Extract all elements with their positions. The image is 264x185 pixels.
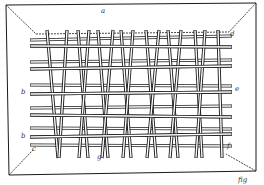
corner-line-top-left: [6, 5, 36, 34]
reference-label-f: f: [227, 143, 230, 150]
reference-label-g: g: [97, 154, 101, 161]
corner-line-bottom-right: [226, 154, 256, 171]
horizontal-rod: [30, 106, 232, 108]
reference-label-b: b: [21, 133, 25, 140]
reference-label-fig: fig: [238, 177, 247, 184]
reference-label-b: b: [21, 89, 25, 96]
reference-label-c: c: [32, 146, 36, 153]
reference-label-a: a: [101, 8, 105, 15]
horizontal-rod-over: [30, 92, 232, 94]
slanted-rods: [30, 30, 232, 158]
corner-line-top-right: [229, 3, 256, 32]
reference-label-e: e: [235, 86, 239, 93]
horizontal-rod-over: [30, 115, 232, 117]
horizontal-rod-over: [30, 46, 232, 47]
slanted-rod: [218, 30, 222, 158]
corner-line-bottom-left: [9, 150, 33, 175]
patent-figure: [0, 0, 264, 185]
reference-label-d: d: [230, 31, 234, 38]
